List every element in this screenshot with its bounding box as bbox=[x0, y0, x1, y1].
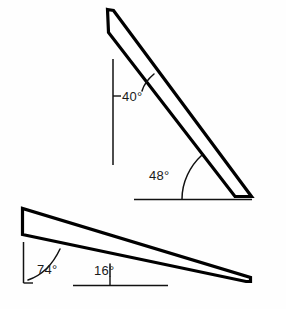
upper-40-degree-label: 40° bbox=[122, 89, 143, 104]
lower-74-degree-label: 74° bbox=[37, 262, 58, 277]
upper-48-degree-arc bbox=[182, 155, 202, 199]
angle-diagram-figure: 40° 48° 74° 16° bbox=[0, 0, 286, 309]
upper-48-degree-text: 48° bbox=[149, 168, 170, 183]
upper-40-degree-text: 40° bbox=[122, 89, 143, 104]
lower-74-degree-text: 74° bbox=[37, 262, 58, 277]
diagram-canvas: 40° 48° 74° 16° bbox=[0, 0, 286, 309]
upper-48-degree-label: 48° bbox=[149, 168, 170, 183]
lower-16-degree-text: 16° bbox=[94, 263, 115, 278]
lower-16-degree-label: 16° bbox=[94, 263, 115, 278]
